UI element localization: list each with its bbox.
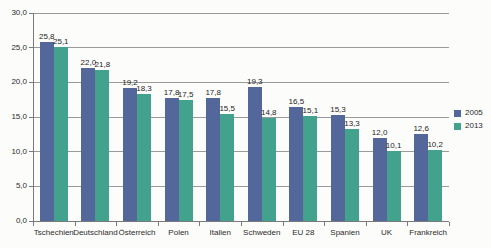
bar-2005 [289,107,303,221]
x-axis-tick [199,222,200,226]
x-axis-tick [158,222,159,226]
bar-value-label: 13,3 [339,119,365,128]
bar-2005 [248,87,262,221]
bar-value-label: 17,8 [200,88,226,97]
gridline [33,47,449,48]
bar-value-label: 18,3 [131,84,157,93]
legend-item: 2013 [454,122,483,130]
bar-value-label: 25,1 [48,37,74,46]
bar-2005 [81,68,95,221]
legend-label: 2005 [465,109,483,117]
x-axis-tick [366,222,367,226]
legend-item: 2005 [454,109,483,117]
bar-2013 [428,150,442,221]
bar-2013 [54,47,68,221]
y-axis-label: 0,0 [1,217,27,225]
bar-value-label: 10,1 [381,141,407,150]
y-axis-label: 15,0 [1,113,27,121]
legend-label: 2013 [465,122,483,130]
bar-value-label: 12,0 [367,128,393,137]
bar-value-label: 15,5 [214,104,240,113]
bar-2005 [40,42,54,221]
bar-2013 [387,151,401,221]
y-axis-label: 10,0 [1,148,27,156]
y-axis-label: 30,0 [1,9,27,17]
x-axis-tick [407,222,408,226]
bar-value-label: 15,1 [297,106,323,115]
x-axis-label: Frankreich [398,228,458,237]
bar-2005 [165,98,179,221]
bar-2013 [220,114,234,221]
bar-value-label: 14,8 [256,108,282,117]
x-axis-tick [283,222,284,226]
bar-2013 [345,129,359,221]
bar-2005 [331,115,345,221]
bar-2013 [262,118,276,221]
bar-value-label: 15,3 [325,105,351,114]
bar-2005 [373,138,387,221]
bar-value-label: 19,3 [242,77,268,86]
bar-value-label: 12,6 [408,124,434,133]
bar-2005 [123,88,137,221]
x-axis-tick [33,222,34,226]
y-axis-line [33,13,34,221]
bar-2013 [179,100,193,221]
x-axis-tick [449,222,450,226]
legend-swatch [454,110,461,117]
bar-value-label: 16,5 [283,97,309,106]
bar-2013 [95,70,109,221]
y-axis-label: 25,0 [1,44,27,52]
y-axis-label: 5,0 [1,182,27,190]
bar-value-label: 21,8 [89,60,115,69]
x-axis-tick [116,222,117,226]
legend-swatch [454,123,461,130]
gridline [33,13,449,14]
y-axis-label: 20,0 [1,78,27,86]
bar-value-label: 10,2 [422,140,448,149]
x-axis-tick [324,222,325,226]
bar-2013 [137,94,151,221]
x-axis-tick [241,222,242,226]
bar-value-label: 17,5 [173,90,199,99]
bar-2005 [206,98,220,221]
x-axis-tick [75,222,76,226]
bar-chart: 0,05,010,015,020,025,030,025,822,019,217… [0,0,491,248]
bar-2013 [303,116,317,221]
